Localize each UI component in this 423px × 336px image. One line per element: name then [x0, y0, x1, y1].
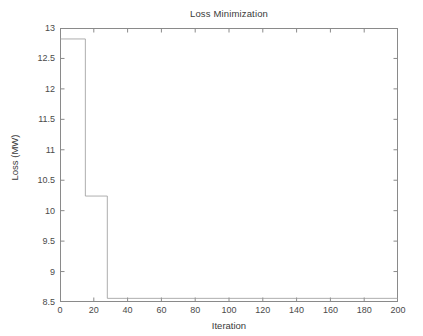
x-tick-label: 0 — [57, 306, 62, 315]
x-axis-tick-labels: 020406080100120140160180200 — [60, 306, 398, 318]
chart-title: Loss Minimization — [60, 8, 398, 19]
x-tick-label: 100 — [221, 306, 236, 315]
x-tick-label: 80 — [190, 306, 200, 315]
y-tick-label: 8.5 — [42, 298, 55, 307]
data-series-group — [60, 39, 398, 298]
x-tick-label: 160 — [323, 306, 338, 315]
y-tick-label: 9 — [50, 267, 55, 276]
plot-svg — [60, 28, 398, 302]
axis-tick-marks — [61, 29, 398, 302]
y-tick-label: 10 — [45, 206, 55, 215]
x-tick-label: 180 — [357, 306, 372, 315]
plot-area — [60, 28, 398, 302]
figure-canvas: Loss Minimization Loss (MW) 8.599.51010.… — [0, 0, 423, 336]
x-tick-label: 40 — [123, 306, 133, 315]
y-tick-label: 12.5 — [37, 54, 55, 63]
y-axis-tick-labels: 8.599.51010.51111.51212.513 — [20, 28, 55, 302]
y-tick-label: 10.5 — [37, 176, 55, 185]
y-tick-label: 9.5 — [42, 237, 55, 246]
x-tick-label: 20 — [89, 306, 99, 315]
x-tick-label: 120 — [255, 306, 270, 315]
x-tick-label: 60 — [156, 306, 166, 315]
axes-box — [61, 29, 398, 302]
y-tick-label: 12 — [45, 84, 55, 93]
x-tick-label: 140 — [289, 306, 304, 315]
y-axis-label: Loss (MW) — [9, 118, 20, 198]
y-tick-label: 13 — [45, 24, 55, 33]
x-axis-label: Iteration — [60, 320, 398, 331]
y-tick-label: 11 — [46, 145, 55, 154]
data-series-line — [60, 39, 398, 298]
x-tick-label: 200 — [390, 306, 405, 315]
y-tick-label: 11.5 — [38, 115, 55, 124]
